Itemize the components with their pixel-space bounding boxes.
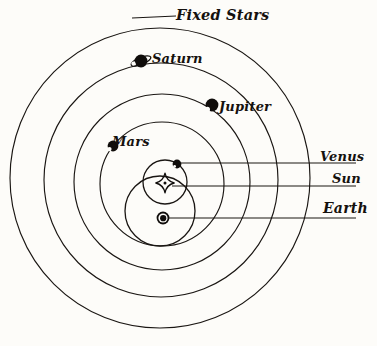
label-jupiter: Jupiter (219, 100, 271, 113)
celestial-diagram: Fixed Stars Saturn Jupiter Mars Venus Su… (0, 0, 377, 346)
label-saturn: Saturn (152, 52, 203, 65)
label-venus: Venus (320, 150, 364, 163)
planet-jupiter (205, 99, 219, 112)
label-sun: Sun (332, 172, 361, 185)
planet-venus (173, 160, 182, 169)
planet-earth (157, 212, 170, 225)
leader-line-fixed-stars (132, 16, 176, 18)
label-earth: Earth (323, 201, 368, 215)
label-fixed-stars: Fixed Stars (176, 8, 269, 23)
orbit-fixed-stars (10, 28, 310, 328)
label-mars: Mars (112, 135, 150, 148)
planet-saturn (130, 54, 152, 69)
